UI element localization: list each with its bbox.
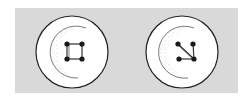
button-illustration (0, 0, 246, 100)
square-stitch-button (36, 16, 108, 88)
cross-stitch-button (146, 16, 218, 88)
